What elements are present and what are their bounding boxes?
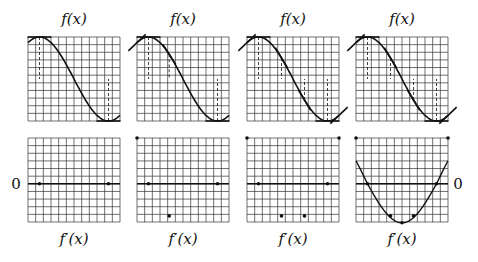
panel-3: f(x)f′(x) [238,10,347,248]
f-prime-graph-grid [135,136,229,222]
panel-1: f(x)f′(x)0 [11,10,120,248]
f-prime-graph-grid [354,136,450,224]
derivative-point [366,182,370,186]
derivative-point [303,214,307,218]
derivative-point [435,182,439,186]
derivative-point [216,182,220,186]
f-of-x-label: f(x) [60,10,87,28]
f-of-x-label: f(x) [279,10,306,28]
derivative-point [446,136,450,140]
f-prime-label: f′(x) [58,230,88,248]
f-graph-grid [347,34,456,123]
zero-label-right: 0 [453,175,463,193]
f-prime-graph-grid [245,136,341,222]
panel-2: f(x)f′(x) [128,10,229,248]
f-of-x-label: f(x) [169,10,196,28]
derivative-sketch-figure: f(x)f′(x)0f(x)f′(x)f(x)f′(x)f(x)f′(x)0 [0,0,478,262]
f-of-x-label: f(x) [388,10,415,28]
f-graph-grid [238,34,347,123]
derivative-point [167,214,171,218]
derivative-point [280,214,284,218]
derivative-point [412,214,416,218]
derivative-point [257,182,261,186]
derivative-point [389,214,393,218]
f-graph-grid [28,37,121,121]
derivative-point [354,136,358,140]
zero-label-left: 0 [11,175,21,193]
f-prime-label: f′(x) [277,230,307,248]
f-prime-graph-grid [28,138,120,222]
f-graph-grid [128,34,229,121]
f-prime-label: f′(x) [386,230,416,248]
f-prime-label: f′(x) [167,230,197,248]
derivative-point [38,182,42,186]
derivative-point [107,182,111,186]
derivative-point [400,221,404,225]
derivative-point [326,182,330,186]
derivative-point [147,182,151,186]
derivative-point [245,136,249,140]
panel-4: f(x)f′(x)0 [347,10,462,248]
derivative-point [135,136,139,140]
derivative-point [337,136,341,140]
